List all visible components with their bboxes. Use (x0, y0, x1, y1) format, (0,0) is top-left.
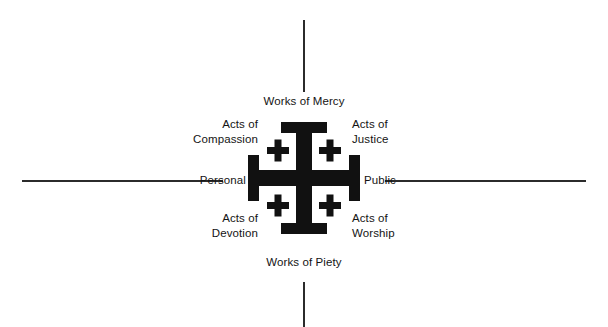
label-works-of-mercy: Works of Mercy (204, 94, 404, 109)
label-personal: Personal (146, 173, 246, 188)
label-works-of-piety: Works of Piety (204, 255, 404, 270)
label-acts-of-worship: Acts of Worship (352, 211, 452, 240)
diagram-canvas: Works of Mercy Works of Piety Acts of Co… (0, 0, 608, 327)
vertical-axis-line-top (303, 20, 305, 92)
label-acts-of-compassion: Acts of Compassion (158, 117, 258, 146)
cutoff-caption-text (58, 0, 550, 4)
jerusalem-cross-icon (248, 122, 360, 234)
label-acts-of-justice: Acts of Justice (352, 117, 452, 146)
label-acts-of-devotion: Acts of Devotion (158, 211, 258, 240)
vertical-axis-line-bottom (303, 282, 305, 327)
label-public: Public (364, 173, 464, 188)
